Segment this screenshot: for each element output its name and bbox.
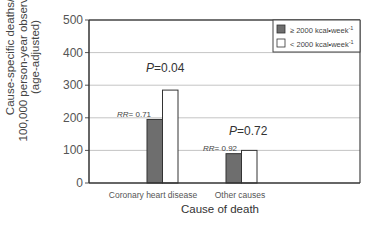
- x-category-label: Coronary heart disease: [109, 190, 198, 200]
- bar: [163, 90, 179, 183]
- y-tick-label: 400: [63, 46, 83, 60]
- x-axis-label: Cause of death: [140, 203, 300, 215]
- legend-swatch-high: [277, 25, 285, 33]
- legend-swatch-low: [277, 39, 285, 47]
- bar: [147, 119, 163, 183]
- y-tick-label: 500: [63, 13, 83, 27]
- y-tick-label: 300: [63, 78, 83, 92]
- rr-annotation: RR= 0.71: [117, 110, 152, 119]
- bar: [226, 154, 242, 183]
- legend-label: ≥ 2000 kcal•week-1: [290, 25, 353, 35]
- y-tick-label: 200: [63, 111, 83, 125]
- legend-label: < 2000 kcal•week-1: [290, 39, 354, 49]
- bar-chart: 0100200300400500Coronary heart diseaseOt…: [0, 0, 381, 226]
- p-value-annotation: P=0.04: [146, 61, 185, 75]
- p-value-annotation: P=0.72: [229, 124, 268, 138]
- x-category-label: Other causes: [215, 190, 266, 200]
- y-tick-label: 100: [63, 143, 83, 157]
- rr-annotation: RR= 0.92: [203, 144, 238, 153]
- y-tick-label: 0: [76, 176, 83, 190]
- bar: [242, 150, 258, 183]
